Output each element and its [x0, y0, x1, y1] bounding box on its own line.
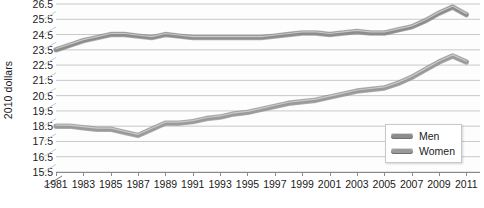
x-tick-label: 1995	[236, 178, 259, 190]
x-tick-mark	[412, 172, 413, 176]
legend-item-men[interactable]: Men	[391, 128, 455, 143]
x-tick-mark	[56, 172, 57, 176]
x-tick-label: 1989	[154, 178, 177, 190]
x-tick-label: 2003	[345, 178, 368, 190]
x-tick-mark	[466, 172, 467, 176]
legend-label: Women	[419, 145, 455, 157]
x-tick-label: 1999	[291, 178, 314, 190]
x-tick-mark	[357, 172, 358, 176]
x-tick-label: 1985	[99, 178, 122, 190]
x-tick-mark	[384, 172, 385, 176]
legend-swatch-icon	[391, 133, 413, 139]
x-tick-mark	[247, 172, 248, 176]
line-chart: 2010 dollars 26.525.524.523.522.521.520.…	[0, 0, 484, 208]
series-line-highlight-men	[56, 6, 466, 49]
x-tick-mark	[111, 172, 112, 176]
series-line-men[interactable]	[56, 7, 466, 50]
x-tick-label: 2011	[455, 178, 478, 190]
x-axis-tick-labels: 1981198319851987198919911993199519971999…	[0, 178, 484, 196]
x-tick-label: 1987	[126, 178, 149, 190]
x-tick-label: 1997	[263, 178, 286, 190]
x-tick-mark	[83, 172, 84, 176]
legend-label: Men	[419, 130, 439, 142]
chart-legend[interactable]: MenWomen	[385, 124, 462, 163]
x-tick-mark	[165, 172, 166, 176]
legend-swatch-icon	[391, 148, 413, 154]
x-axis-line	[56, 172, 480, 173]
y-axis-title-text: 2010 dollars	[2, 61, 14, 119]
x-tick-mark	[330, 172, 331, 176]
x-tick-mark	[439, 172, 440, 176]
x-tick-label: 1993	[208, 178, 231, 190]
x-tick-label: 2007	[400, 178, 423, 190]
x-tick-mark	[302, 172, 303, 176]
x-tick-mark	[138, 172, 139, 176]
x-tick-label: 1981	[44, 178, 67, 190]
x-tick-label: 1991	[181, 178, 204, 190]
x-tick-label: 2009	[427, 178, 450, 190]
x-tick-label: 2001	[318, 178, 341, 190]
x-tick-label: 2005	[373, 178, 396, 190]
y-axis-title: 2010 dollars	[0, 0, 16, 180]
legend-item-women[interactable]: Women	[391, 143, 455, 158]
x-tick-mark	[193, 172, 194, 176]
series-line-highlight-women	[56, 55, 466, 134]
x-tick-mark	[275, 172, 276, 176]
x-tick-mark	[220, 172, 221, 176]
x-tick-label: 1983	[72, 178, 95, 190]
